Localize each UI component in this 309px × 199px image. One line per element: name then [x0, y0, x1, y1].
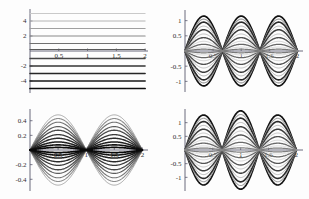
plot-svg-top-right: 0.511.5210.5-0.5-1: [155, 0, 309, 100]
plot-panel-top-left: 0.511.5242-2-4: [0, 0, 155, 100]
y-tick-label: -1: [176, 78, 182, 86]
plot-svg-bottom-right: 0.511.5210.5-0.5-1: [155, 100, 309, 199]
plot-svg-bottom-left: 0.511.520.40.2-0.2-0.4: [0, 100, 155, 199]
y-tick-label: 0.2: [18, 132, 27, 140]
y-tick-label: 1: [178, 119, 182, 127]
plot-panel-bottom-left: 0.511.520.40.2-0.2-0.4: [0, 100, 155, 199]
y-tick-label: 1: [178, 17, 182, 25]
y-tick-label: -0.4: [15, 176, 27, 184]
plot-panel-top-right: 0.511.5210.5-0.5-1: [155, 0, 309, 100]
y-tick-label: 0.4: [18, 117, 27, 125]
y-tick-label: -2: [21, 62, 27, 70]
plot-svg-top-left: 0.511.5242-2-4: [0, 0, 155, 100]
y-tick-label: 0.5: [173, 32, 182, 40]
y-tick-label: -1: [176, 174, 182, 182]
y-tick-label: 2: [23, 32, 27, 40]
y-tick-label: -0.5: [170, 63, 182, 71]
y-tick-label: 0.5: [173, 133, 182, 141]
figure-canvas: 0.511.5242-2-4 0.511.5210.5-0.5-1 0.511.…: [0, 0, 309, 199]
y-tick-label: 4: [23, 17, 27, 25]
y-tick-label: -4: [21, 77, 27, 85]
y-tick-label: -0.2: [15, 161, 27, 169]
y-tick-label: -0.5: [170, 160, 182, 168]
plot-panel-bottom-right: 0.511.5210.5-0.5-1: [155, 100, 309, 199]
